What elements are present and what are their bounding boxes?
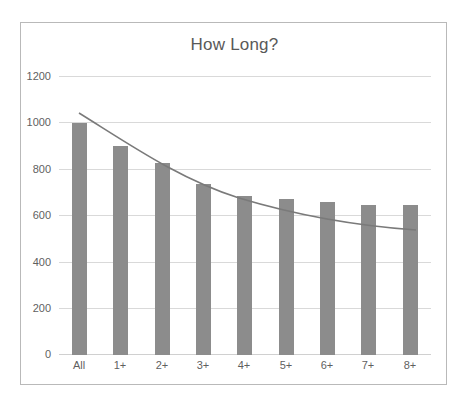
- bar-2plus: [155, 163, 170, 355]
- ytick-label-1200: 1200: [7, 70, 51, 82]
- ytick-label-400: 400: [7, 256, 51, 268]
- xtick-label-5plus: 5+: [266, 359, 306, 371]
- bar-5plus: [279, 199, 294, 355]
- x-axis-labels: All 1+ 2+ 3+ 4+ 5+ 6+ 7+ 8+: [59, 359, 431, 379]
- bar-4plus: [237, 196, 252, 355]
- bar-6plus: [320, 202, 335, 355]
- xtick-label-7plus: 7+: [348, 359, 388, 371]
- plot-area: [59, 76, 431, 355]
- bar-3plus: [196, 184, 211, 355]
- ytick-label-1000: 1000: [7, 116, 51, 128]
- ytick-label-200: 200: [7, 302, 51, 314]
- xtick-label-2plus: 2+: [142, 359, 182, 371]
- chart-title: How Long?: [21, 35, 448, 55]
- ytick-label-600: 600: [7, 209, 51, 221]
- chart-figure: How Long? 1200: [0, 0, 466, 403]
- xtick-label-4plus: 4+: [224, 359, 264, 371]
- gridline-1000: [59, 122, 431, 123]
- ytick-label-0: 0: [7, 348, 51, 360]
- bar-all: [72, 123, 87, 355]
- xtick-label-1plus: 1+: [100, 359, 140, 371]
- chart-frame: How Long? 1200: [20, 22, 447, 385]
- xtick-label-3plus: 3+: [183, 359, 223, 371]
- xtick-label-all: All: [59, 359, 99, 371]
- bar-1plus: [113, 146, 128, 355]
- bar-7plus: [361, 205, 376, 355]
- ytick-label-800: 800: [7, 163, 51, 175]
- bar-8plus: [403, 205, 418, 355]
- xtick-label-6plus: 6+: [307, 359, 347, 371]
- xtick-label-8plus: 8+: [390, 359, 430, 371]
- gridline-1200: [59, 76, 431, 77]
